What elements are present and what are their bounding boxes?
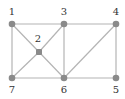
node-label-3: 3 bbox=[61, 6, 67, 17]
node-6 bbox=[61, 75, 68, 82]
node-1 bbox=[9, 21, 16, 28]
node-label-7: 7 bbox=[9, 84, 15, 95]
node-label-4: 4 bbox=[113, 6, 119, 17]
node-label-6: 6 bbox=[61, 84, 67, 95]
edge-4-6 bbox=[64, 24, 116, 78]
node-2 bbox=[36, 49, 42, 55]
node-label-2: 2 bbox=[35, 33, 41, 44]
edges-group bbox=[12, 24, 116, 78]
edge-2-7 bbox=[12, 52, 39, 78]
node-4 bbox=[113, 21, 120, 28]
node-label-1: 1 bbox=[9, 6, 15, 17]
graph-diagram: 1234567 bbox=[0, 0, 125, 99]
edge-3-2 bbox=[39, 24, 64, 52]
edge-2-6 bbox=[39, 52, 64, 78]
node-7 bbox=[9, 75, 16, 82]
node-3 bbox=[61, 21, 68, 28]
node-5 bbox=[113, 75, 120, 82]
node-label-5: 5 bbox=[113, 84, 119, 95]
